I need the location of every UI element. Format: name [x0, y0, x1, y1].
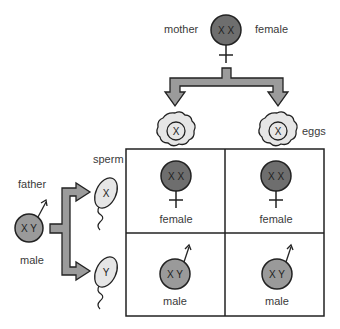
sperm-2: Y [90, 253, 122, 309]
offspring-sex-label: male [265, 295, 289, 307]
punnett-diagram: X X X X X Y X Y [0, 0, 340, 329]
mother-sex-label: female [255, 23, 288, 35]
offspring-female-2: X X [261, 161, 291, 208]
offspring-male-1: X Y [160, 245, 191, 289]
eggs-label: eggs [302, 125, 326, 137]
mother-cell: X X [211, 15, 241, 63]
svg-text:X Y: X Y [167, 269, 183, 280]
offspring-sex-label: male [163, 295, 187, 307]
mother-label: mother [164, 23, 198, 35]
mother-split-arrow [165, 68, 288, 106]
svg-text:X Y: X Y [269, 269, 285, 280]
father-cell: X Y [15, 200, 47, 242]
offspring-male-2: X Y [262, 245, 293, 289]
sperm-label: sperm [93, 153, 124, 165]
svg-text:X X: X X [218, 25, 234, 36]
father-label: father [18, 178, 46, 190]
svg-text:X X: X X [268, 171, 284, 182]
svg-text:Y: Y [103, 267, 110, 278]
svg-text:X: X [275, 126, 282, 137]
svg-text:X: X [173, 126, 180, 137]
svg-text:X Y: X Y [21, 223, 37, 234]
father-sex-label: male [20, 254, 44, 266]
male-symbol-icon [38, 202, 46, 217]
offspring-sex-label: female [159, 213, 192, 225]
punnett-grid [126, 149, 324, 316]
offspring-sex-label: female [259, 213, 292, 225]
svg-text:X: X [103, 188, 110, 199]
sperm-1: X [90, 174, 122, 230]
svg-text:X X: X X [168, 171, 184, 182]
egg-1: X [157, 112, 195, 146]
offspring-female-1: X X [161, 161, 191, 208]
egg-2: X [259, 112, 297, 146]
father-split-arrow [50, 183, 90, 280]
